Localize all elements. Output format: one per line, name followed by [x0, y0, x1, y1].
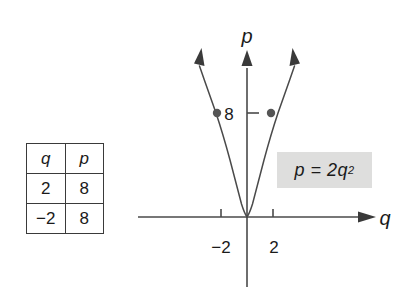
- data-point-2-8: [267, 109, 275, 117]
- figure-root: q p 2 8 −2 8: [0, 0, 410, 292]
- data-points: [213, 109, 275, 117]
- y-axis-arrow-icon: [242, 50, 253, 66]
- x-tick-label-neg2: −2: [211, 238, 230, 257]
- values-table: q p 2 8 −2 8: [26, 143, 104, 234]
- parabola-curve: [183, 48, 300, 217]
- table-header-row: q p: [27, 144, 104, 174]
- table-cell-q-1: 2: [27, 174, 66, 204]
- table-row: −2 8: [27, 204, 104, 234]
- table-header-p: p: [65, 144, 104, 174]
- equation-label: p = 2q2: [277, 152, 372, 188]
- x-axis-label: q: [379, 207, 390, 229]
- parabola-graph: −2 2 8 p q: [130, 10, 410, 292]
- data-point-neg2-8: [213, 109, 221, 117]
- y-axis: [242, 50, 253, 287]
- y-tick-label-8: 8: [224, 105, 233, 124]
- table-cell-p-2: 8: [65, 204, 104, 234]
- table-row: 2 8: [27, 174, 104, 204]
- curve-arrow-left-icon: [194, 48, 205, 66]
- x-axis: [138, 212, 376, 223]
- curve-arrow-right-icon: [290, 48, 301, 66]
- equation-callout: p = 2q2: [277, 152, 372, 188]
- x-axis-arrow-icon: [358, 212, 376, 223]
- equation-base: p = 2q: [294, 160, 348, 181]
- x-tick-label-2: 2: [269, 238, 278, 257]
- y-axis-label: p: [240, 25, 252, 47]
- table-cell-p-1: 8: [65, 174, 104, 204]
- table-cell-q-2: −2: [27, 204, 66, 234]
- equation-exponent: 2: [348, 164, 355, 176]
- table-header-q: q: [27, 144, 66, 174]
